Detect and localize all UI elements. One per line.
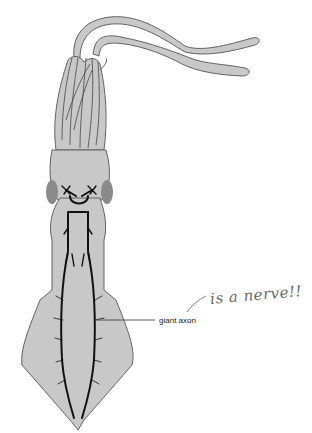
arms <box>55 56 107 150</box>
giant-axon-label: giant axon <box>159 316 196 325</box>
feeding-tentacles <box>74 17 260 76</box>
head <box>46 150 113 204</box>
squid-diagram <box>0 0 312 433</box>
mantle <box>22 198 133 430</box>
annotation-stroke <box>187 296 206 312</box>
right-eye <box>101 180 113 204</box>
left-eye <box>46 180 58 204</box>
